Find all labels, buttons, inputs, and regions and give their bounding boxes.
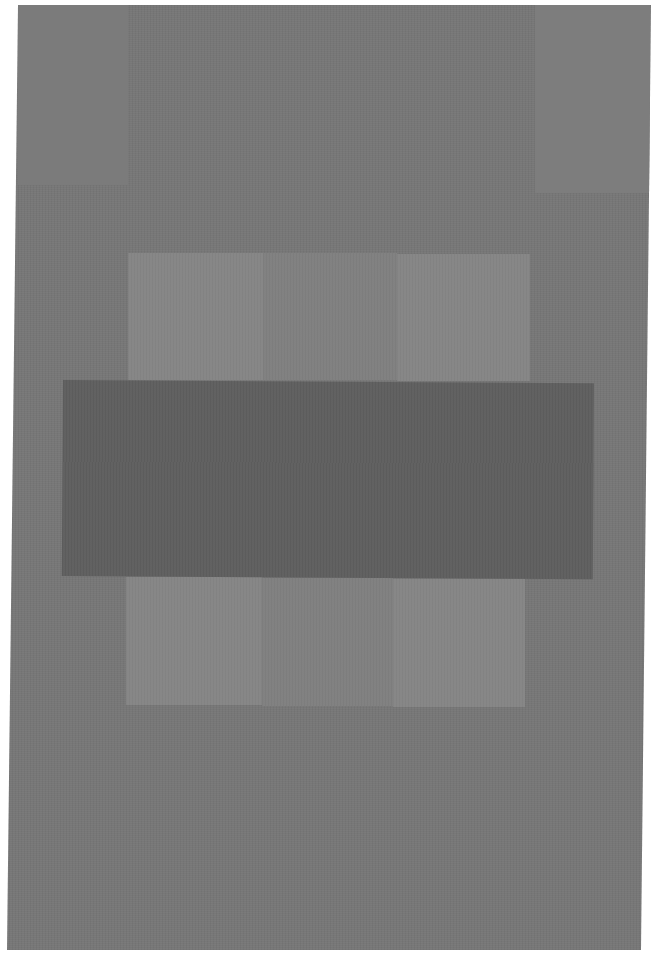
lower-panel-right bbox=[393, 579, 525, 707]
upper-panel-left bbox=[128, 253, 263, 380]
upper-right-tone-block bbox=[535, 5, 650, 193]
center-dark-rectangle bbox=[62, 380, 594, 579]
lower-panel-left bbox=[126, 577, 262, 705]
artwork-canvas bbox=[0, 0, 656, 958]
lower-panel-middle bbox=[262, 578, 393, 706]
upper-panel-middle bbox=[263, 253, 397, 380]
upper-panel-right bbox=[397, 254, 530, 381]
painting-field bbox=[0, 0, 656, 958]
upper-left-tone-block bbox=[18, 5, 128, 185]
